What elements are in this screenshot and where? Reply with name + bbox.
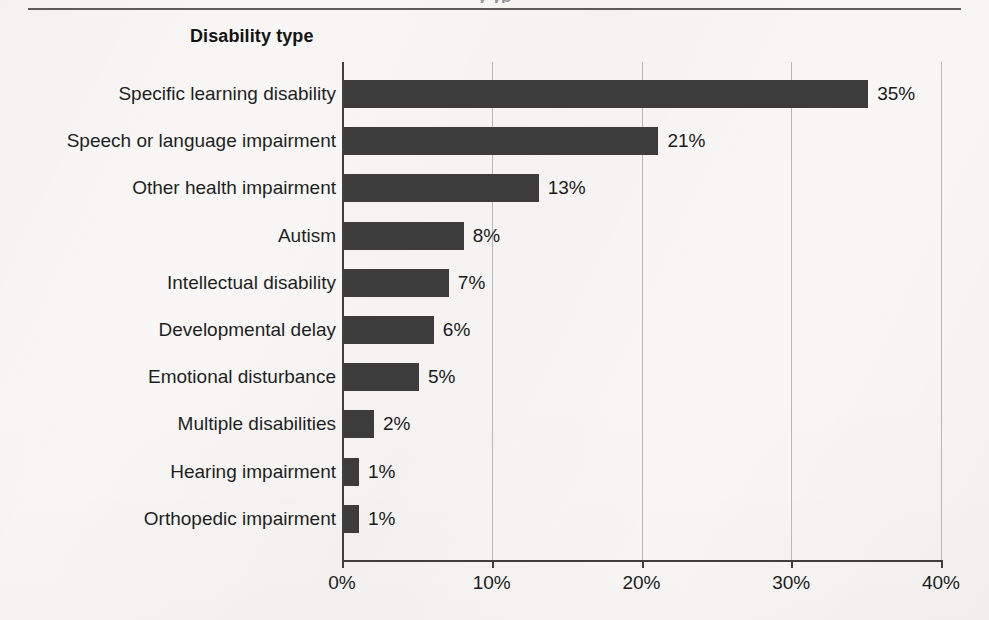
bar-value-label: 35% xyxy=(877,80,915,108)
bar xyxy=(344,174,539,202)
bar-value-label: 2% xyxy=(383,410,410,438)
bar xyxy=(344,127,658,155)
category-label: Hearing impairment xyxy=(170,458,336,486)
bar-value-label: 6% xyxy=(443,316,470,344)
x-tick-label: 30% xyxy=(772,572,810,594)
bar xyxy=(344,269,449,297)
x-tick-label: 40% xyxy=(922,572,960,594)
bar xyxy=(344,458,359,486)
bar xyxy=(344,505,359,533)
category-label: Intellectual disability xyxy=(167,269,336,297)
bar-value-label: 13% xyxy=(548,174,586,202)
bar-value-label: 1% xyxy=(368,458,395,486)
x-gridline xyxy=(791,62,792,560)
category-label: Speech or language impairment xyxy=(67,127,336,155)
bar xyxy=(344,363,419,391)
x-tick-label: 10% xyxy=(473,572,511,594)
bar xyxy=(344,80,868,108)
x-gridline xyxy=(941,62,942,560)
bar-value-label: 7% xyxy=(458,269,485,297)
bar xyxy=(344,316,434,344)
x-tick-mark xyxy=(642,560,644,568)
chart-page: y yp Disability type 0%10%20%30%40%Speci… xyxy=(0,0,989,620)
x-tick-mark xyxy=(342,560,344,568)
bar-value-label: 8% xyxy=(473,222,500,250)
category-label: Developmental delay xyxy=(159,316,336,344)
category-label: Multiple disabilities xyxy=(178,410,336,438)
category-label: Other health impairment xyxy=(132,174,336,202)
x-tick-label: 0% xyxy=(328,572,355,594)
bar-value-label: 1% xyxy=(368,505,395,533)
category-label: Specific learning disability xyxy=(118,80,336,108)
bar-value-label: 21% xyxy=(667,127,705,155)
category-label: Autism xyxy=(278,222,336,250)
x-tick-label: 20% xyxy=(622,572,660,594)
plot-area: 0%10%20%30%40%Specific learning disabili… xyxy=(0,0,989,620)
bar xyxy=(344,222,464,250)
bar-value-label: 5% xyxy=(428,363,455,391)
category-label: Emotional disturbance xyxy=(148,363,336,391)
bar xyxy=(344,410,374,438)
x-tick-mark xyxy=(492,560,494,568)
x-tick-mark xyxy=(791,560,793,568)
x-tick-mark xyxy=(941,560,943,568)
category-label: Orthopedic impairment xyxy=(144,505,336,533)
